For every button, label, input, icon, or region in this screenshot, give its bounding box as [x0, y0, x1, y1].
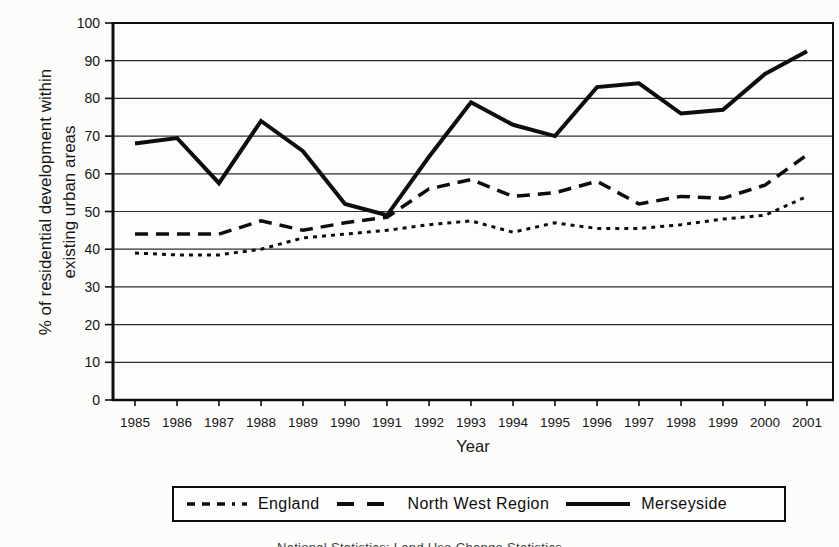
legend-box: England North West Region Merseyside: [172, 486, 786, 522]
y-tick-label-80: 80: [84, 90, 100, 106]
y-tick-label-0: 0: [92, 392, 100, 408]
x-tick-label-1996: 1996: [582, 415, 612, 430]
north-west-region-dashed-line-sample: [336, 499, 398, 509]
legend-item-north-west-region: North West Region: [336, 495, 550, 513]
x-tick-label-1993: 1993: [456, 415, 486, 430]
y-axis-label-line2: existing urban areas: [58, 10, 82, 394]
x-tick-label-1987: 1987: [204, 415, 234, 430]
y-tick-label-20: 20: [84, 317, 100, 333]
england-dotted-line-sample: [186, 499, 248, 509]
x-tick-label-1998: 1998: [666, 415, 696, 430]
clipped-bottom-caption: National Statistics: Land Use Change Sta…: [0, 540, 839, 547]
x-axis-label: Year: [113, 437, 833, 456]
legend-item-merseyside: Merseyside: [565, 495, 727, 513]
x-tick-label-1985: 1985: [120, 415, 150, 430]
y-tick-label-10: 10: [84, 354, 100, 370]
chart-plot-area: 0102030405060708090100198519861987198819…: [0, 0, 839, 547]
x-tick-label-1990: 1990: [330, 415, 360, 430]
x-tick-label-1986: 1986: [162, 415, 192, 430]
y-tick-label-90: 90: [84, 53, 100, 69]
y-axis-label: % of residential development within exis…: [34, 10, 82, 394]
legend-item-england: England: [186, 495, 320, 513]
x-tick-label-1994: 1994: [498, 415, 529, 430]
legend-label-england: England: [258, 495, 320, 513]
x-tick-label-1989: 1989: [288, 415, 318, 430]
chart-figure: 0102030405060708090100198519861987198819…: [0, 0, 839, 547]
x-tick-label-2001: 2001: [792, 415, 822, 430]
y-tick-label-30: 30: [84, 279, 100, 295]
x-tick-label-1991: 1991: [372, 415, 402, 430]
merseyside-solid-line-sample: [565, 499, 631, 509]
legend-label-merseyside: Merseyside: [641, 495, 727, 513]
x-tick-label-1999: 1999: [708, 415, 738, 430]
y-tick-label-50: 50: [84, 204, 100, 220]
x-tick-label-1988: 1988: [246, 415, 276, 430]
y-tick-label-40: 40: [84, 241, 100, 257]
x-tick-label-1995: 1995: [540, 415, 570, 430]
y-tick-label-70: 70: [84, 128, 100, 144]
y-axis-label-line1: % of residential development within: [34, 10, 58, 394]
x-tick-label-2000: 2000: [750, 415, 780, 430]
y-tick-label-60: 60: [84, 166, 100, 182]
legend-label-north-west-region: North West Region: [408, 495, 550, 513]
x-tick-label-1997: 1997: [624, 415, 654, 430]
x-tick-label-1992: 1992: [414, 415, 444, 430]
